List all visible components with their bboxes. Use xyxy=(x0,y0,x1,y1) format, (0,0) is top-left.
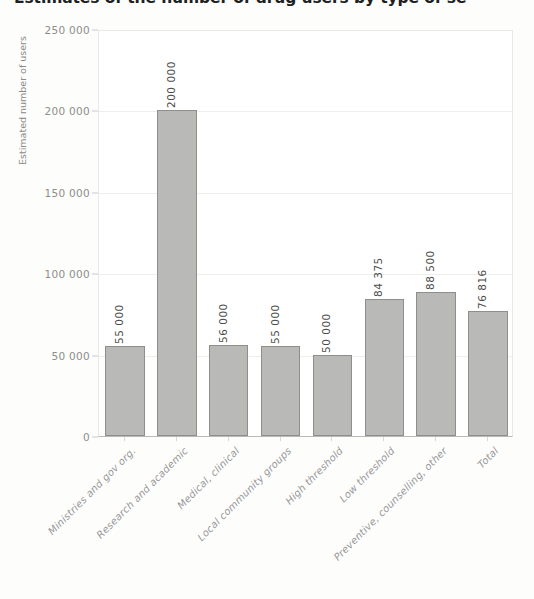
bar[interactable]: 84 375 xyxy=(365,299,404,436)
y-axis-tick-label: 100 000 xyxy=(0,268,90,280)
y-axis-title: Estimated number of users xyxy=(17,16,28,186)
x-axis-category-label: Low threshold xyxy=(338,445,397,504)
bar-value-label: 84 375 xyxy=(372,257,384,297)
y-axis-tick-label: 200 000 xyxy=(0,105,90,117)
bar-value-label: 55 000 xyxy=(269,305,281,345)
y-axis-tick-label: 150 000 xyxy=(0,187,90,199)
x-axis-tick-mark xyxy=(176,437,177,441)
bar-value-label: 55 000 xyxy=(113,305,125,345)
bar[interactable]: 55 000 xyxy=(105,346,144,436)
x-axis-category-label: Total xyxy=(476,445,501,470)
x-axis-tick-mark xyxy=(383,437,384,441)
page-title: Estimates of the number of drug users by… xyxy=(14,0,466,7)
chart-title-strip: Estimates of the number of drug users by… xyxy=(0,0,534,11)
bar-value-label: 76 816 xyxy=(476,269,488,309)
x-axis-tick-mark xyxy=(280,437,281,441)
bar[interactable]: 56 000 xyxy=(209,345,248,436)
x-axis-category-label: Preventive, counselling, other xyxy=(331,445,449,563)
x-axis-tick-mark xyxy=(331,437,332,441)
x-axis-category-label: Ministries and gov org. xyxy=(46,445,138,537)
x-axis-tick-mark xyxy=(435,437,436,441)
x-axis-tick-mark xyxy=(487,437,488,441)
bar-value-label: 88 500 xyxy=(424,250,436,290)
bar[interactable]: 55 000 xyxy=(261,346,300,436)
y-axis-tick-label: 50 000 xyxy=(0,350,90,362)
bar[interactable]: 200 000 xyxy=(157,110,196,436)
bar[interactable]: 50 000 xyxy=(313,355,352,436)
x-axis-category-label: Local community groups xyxy=(195,445,293,543)
plot-area: 55 000200 00056 00055 00050 00084 37588 … xyxy=(98,30,513,437)
x-axis-tick-mark xyxy=(228,437,229,441)
bar[interactable]: 76 816 xyxy=(468,311,507,436)
y-axis-tick-label: 0 xyxy=(0,431,90,443)
y-axis-tick-label: 250 000 xyxy=(0,24,90,36)
x-axis-category-label: High threshold xyxy=(283,445,345,507)
x-axis-tick-mark xyxy=(124,437,125,441)
bar-value-label: 50 000 xyxy=(320,313,332,353)
x-axis-category-label: Research and academic xyxy=(94,445,190,541)
bar-value-label: 56 000 xyxy=(217,303,229,343)
bar[interactable]: 88 500 xyxy=(416,292,455,436)
bar-value-label: 200 000 xyxy=(165,61,177,108)
